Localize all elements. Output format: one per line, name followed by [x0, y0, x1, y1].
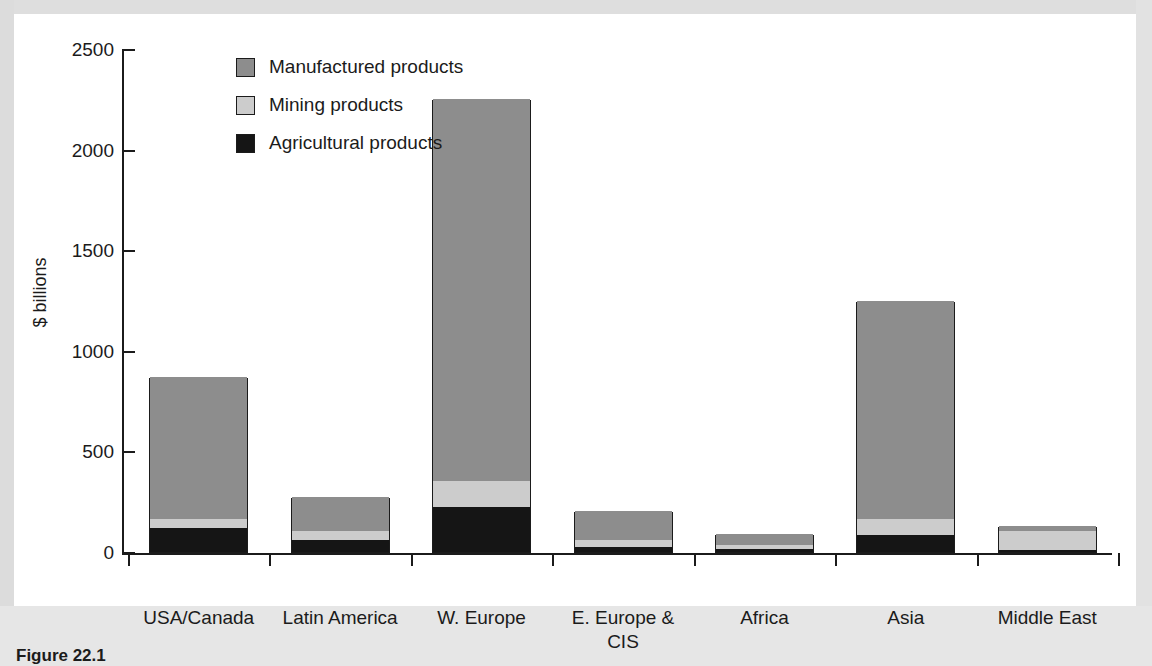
x-axis-tick	[552, 553, 554, 566]
x-axis-tick	[269, 553, 271, 566]
x-axis-category-label-line: Africa	[694, 606, 835, 630]
page-gutter-left	[0, 0, 14, 620]
bar-segment-mining[interactable]	[575, 540, 672, 547]
y-axis-tick-label: 2000	[34, 141, 114, 160]
chart-legend: Manufactured productsMining productsAgri…	[236, 48, 463, 162]
x-axis-category-label-line: E. Europe &	[552, 606, 693, 630]
figure-panel: 05001000150020002500 $ billions USA/Cana…	[14, 14, 1136, 606]
manufactured-swatch	[236, 58, 255, 77]
x-axis-category-label-line: W. Europe	[411, 606, 552, 630]
figure-page: 05001000150020002500 $ billions USA/Cana…	[0, 0, 1152, 666]
x-axis-category-label-line: Latin America	[269, 606, 410, 630]
bar-segment-manufactured[interactable]	[575, 511, 672, 540]
stacked-bar[interactable]	[715, 535, 814, 553]
x-axis-tick	[1118, 553, 1120, 566]
bar-segment-mining[interactable]	[857, 519, 954, 535]
bar-segment-mining[interactable]	[150, 519, 247, 528]
agricultural-swatch	[236, 134, 255, 153]
stacked-bar[interactable]	[574, 512, 673, 553]
x-axis-tick	[411, 553, 413, 566]
x-axis-category-label: USA/Canada	[128, 606, 269, 630]
stacked-bar[interactable]	[432, 100, 531, 553]
bar-segment-mining[interactable]	[433, 481, 530, 507]
bar-segment-agricultural[interactable]	[575, 547, 672, 552]
legend-item[interactable]: Manufactured products	[236, 48, 463, 86]
y-axis-title: $ billions	[30, 223, 51, 363]
y-axis-tick-label: 2500	[34, 40, 114, 59]
bar-segment-mining[interactable]	[999, 531, 1096, 550]
stacked-bar-chart: 05001000150020002500 $ billions USA/Cana…	[14, 14, 1136, 606]
x-axis-category-label: E. Europe &CIS	[552, 606, 693, 654]
x-axis-category-label-line: Asia	[835, 606, 976, 630]
legend-item-label: Agricultural products	[269, 132, 442, 154]
bar-segment-manufactured[interactable]	[999, 526, 1096, 531]
bar-segment-agricultural[interactable]	[433, 507, 530, 552]
legend-item-label: Manufactured products	[269, 56, 463, 78]
x-axis-category-label: W. Europe	[411, 606, 552, 630]
y-axis-tick	[122, 351, 135, 353]
page-gutter-right	[1136, 0, 1152, 620]
bar-segment-manufactured[interactable]	[150, 377, 247, 519]
stacked-bar[interactable]	[149, 378, 248, 553]
figure-caption: Figure 22.1	[16, 646, 106, 666]
legend-item-label: Mining products	[269, 94, 403, 116]
y-axis-tick-label: 0	[34, 543, 114, 562]
x-axis-tick	[128, 553, 130, 566]
mining-swatch	[236, 96, 255, 115]
stacked-bar[interactable]	[291, 498, 390, 553]
y-axis-tick	[122, 250, 135, 252]
x-axis-tick	[835, 553, 837, 566]
legend-item[interactable]: Mining products	[236, 86, 463, 124]
bar-segment-manufactured[interactable]	[292, 497, 389, 531]
x-axis-tick	[694, 553, 696, 566]
bar-segment-agricultural[interactable]	[150, 528, 247, 552]
stacked-bar[interactable]	[856, 302, 955, 554]
stacked-bar[interactable]	[998, 527, 1097, 553]
y-axis-tick-label: 500	[34, 442, 114, 461]
page-gutter-top	[0, 0, 1152, 14]
bar-segment-agricultural[interactable]	[716, 549, 813, 552]
x-axis-category-label: Latin America	[269, 606, 410, 630]
x-axis-category-label-line: CIS	[552, 630, 693, 654]
bar-segment-manufactured[interactable]	[716, 534, 813, 545]
bar-segment-mining[interactable]	[716, 545, 813, 549]
legend-item[interactable]: Agricultural products	[236, 124, 463, 162]
x-axis-tick	[977, 553, 979, 566]
bar-segment-manufactured[interactable]	[857, 301, 954, 519]
y-axis-line	[122, 50, 124, 554]
y-axis-tick	[122, 49, 135, 51]
bar-segment-agricultural[interactable]	[999, 550, 1096, 552]
bar-segment-agricultural[interactable]	[857, 535, 954, 552]
x-axis-category-label-line: USA/Canada	[128, 606, 269, 630]
bar-segment-agricultural[interactable]	[292, 540, 389, 552]
x-axis-category-label: Middle East	[977, 606, 1118, 630]
bar-segment-mining[interactable]	[292, 531, 389, 540]
y-axis-tick	[122, 451, 135, 453]
x-axis-category-label: Africa	[694, 606, 835, 630]
x-axis-category-label: Asia	[835, 606, 976, 630]
x-axis-category-label-line: Middle East	[977, 606, 1118, 630]
y-axis-tick	[122, 150, 135, 152]
